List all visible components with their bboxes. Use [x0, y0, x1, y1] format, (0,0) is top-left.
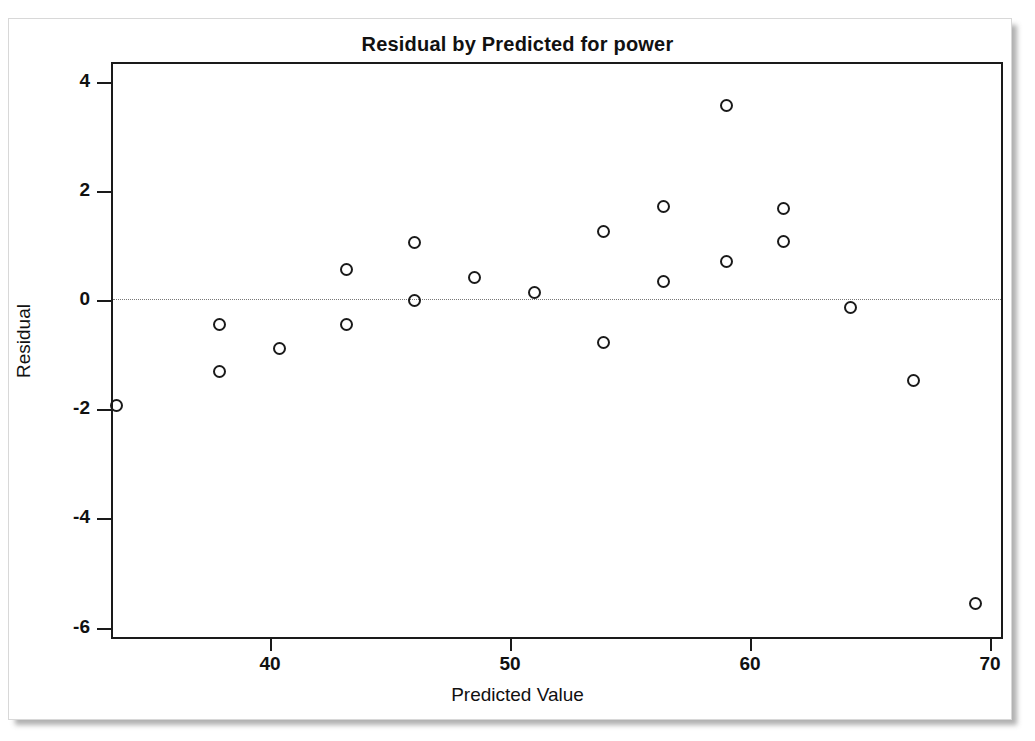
- x-axis-tick-label: 60: [710, 653, 790, 677]
- y-axis-tick-label: -6: [22, 616, 90, 638]
- data-point: [720, 99, 733, 112]
- x-axis-tick-label-text: 50: [470, 653, 550, 675]
- y-axis-tick-label-text: -4: [30, 506, 90, 528]
- data-point: [408, 294, 421, 307]
- data-point: [657, 275, 670, 288]
- y-axis-title: Residual: [13, 281, 35, 401]
- data-point: [597, 225, 610, 238]
- screenshot-page: Residual by Predicted for power 420-2-4-…: [0, 0, 1035, 741]
- x-axis-tick-label-text: 70: [950, 653, 1030, 675]
- y-axis-tick-label-text: -6: [30, 616, 90, 638]
- y-axis-tick-label-text: -2: [30, 397, 90, 419]
- x-axis-tick: [270, 639, 272, 651]
- data-point: [907, 374, 920, 387]
- x-axis-tick-label-text: 60: [710, 653, 790, 675]
- x-axis-tick-label-text: 40: [230, 653, 310, 675]
- data-point: [720, 255, 733, 268]
- x-axis-tick: [750, 639, 752, 651]
- y-axis-tick: [97, 300, 111, 302]
- residual-scatter-plot: Residual by Predicted for power 420-2-4-…: [0, 0, 1035, 741]
- x-axis-title: Predicted Value: [0, 684, 1035, 706]
- zero-reference-line: [113, 299, 1001, 300]
- x-axis-tick: [510, 639, 512, 651]
- x-axis-tick-label: 40: [230, 653, 310, 677]
- y-axis-tick-label-text: 0: [30, 288, 90, 310]
- data-point: [657, 200, 670, 213]
- y-axis-tick-label-text: 4: [30, 70, 90, 92]
- data-point: [110, 399, 123, 412]
- y-axis-tick-label: 2: [22, 179, 90, 201]
- data-point: [969, 597, 982, 610]
- x-axis-tick: [990, 639, 992, 651]
- chart-title: Residual by Predicted for power: [0, 33, 1035, 56]
- x-axis-tick-label: 50: [470, 653, 550, 677]
- data-point: [273, 342, 286, 355]
- y-axis-tick: [97, 82, 111, 84]
- data-point: [408, 236, 421, 249]
- data-point: [468, 271, 481, 284]
- plot-frame: [111, 62, 1003, 639]
- y-axis-tick: [97, 628, 111, 630]
- data-point: [528, 286, 541, 299]
- y-axis-tick: [97, 409, 111, 411]
- y-axis-tick-label-text: 2: [30, 179, 90, 201]
- y-axis-tick: [97, 191, 111, 193]
- y-axis-tick-label: 4: [22, 70, 90, 92]
- y-axis-tick: [97, 518, 111, 520]
- y-axis-tick-label: -4: [22, 506, 90, 528]
- x-axis-tick-label: 70: [950, 653, 1030, 677]
